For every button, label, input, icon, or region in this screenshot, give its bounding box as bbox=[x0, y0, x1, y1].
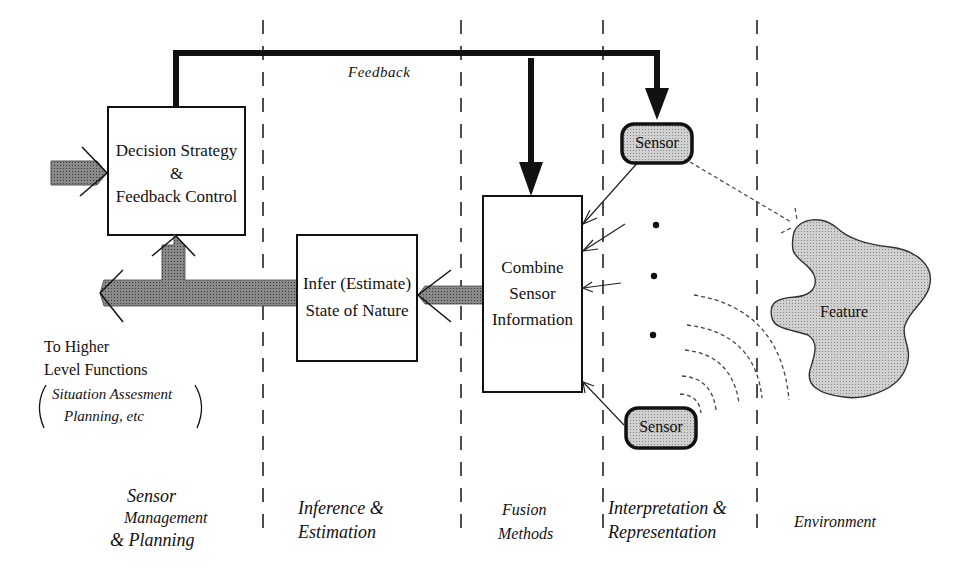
paren-right bbox=[195, 385, 202, 428]
col1-line3: & Planning bbox=[110, 528, 208, 552]
col2-line1: Inference & bbox=[298, 496, 384, 520]
feature-label: Feature bbox=[820, 303, 868, 321]
paren-left bbox=[39, 385, 46, 428]
paren-line-1: Situation Assesment bbox=[52, 383, 172, 405]
sensor-input-arrows bbox=[583, 160, 640, 425]
sensing-beam bbox=[690, 162, 797, 233]
col4-line1: Interpretation & bbox=[608, 496, 727, 520]
infer-line-1: Infer (Estimate) bbox=[297, 270, 417, 297]
higher-line-1: To Higher bbox=[44, 335, 148, 358]
feedback-label: Feedback bbox=[348, 64, 410, 81]
infer-line-2: State of Nature bbox=[297, 297, 417, 324]
combine-to-infer-arrow bbox=[418, 270, 483, 322]
feedback-bus bbox=[176, 53, 657, 165]
col5-line1: Environment bbox=[794, 510, 876, 534]
column-environment: Environment bbox=[794, 510, 876, 534]
column-interpretation: Interpretation & Representation bbox=[608, 496, 727, 544]
decision-line-2: & bbox=[108, 164, 245, 184]
combine-line-2: Sensor bbox=[483, 281, 582, 307]
combine-line-3: Information bbox=[483, 307, 582, 333]
feedback-arrowhead-combine bbox=[519, 162, 543, 196]
col4-line2: Representation bbox=[608, 520, 727, 544]
combine-line-1: Combine bbox=[483, 255, 582, 281]
decision-box-label: Decision Strategy & Feedback Control bbox=[108, 138, 245, 210]
input-arrow bbox=[51, 147, 107, 196]
decision-line-3: Feedback Control bbox=[108, 184, 245, 210]
col3-line2: Methods bbox=[498, 522, 553, 546]
col2-line2: Estimation bbox=[298, 520, 384, 544]
higher-level-examples: Situation Assesment Planning, etc bbox=[52, 383, 172, 427]
infer-box-label: Infer (Estimate) State of Nature bbox=[297, 270, 417, 324]
output-arrow bbox=[100, 234, 298, 322]
decision-line-1: Decision Strategy bbox=[108, 138, 245, 164]
col3-line1: Fusion bbox=[498, 498, 553, 522]
feedback-arrowhead-sensor bbox=[645, 88, 669, 120]
sensor-bottom: Sensor bbox=[626, 418, 696, 436]
sensor-top: Sensor bbox=[622, 134, 692, 152]
higher-line-2: Level Functions bbox=[44, 358, 148, 381]
combine-box-label: Combine Sensor Information bbox=[483, 255, 582, 333]
col1-line1: Sensor bbox=[110, 484, 208, 508]
column-inference: Inference & Estimation bbox=[298, 496, 384, 544]
column-fusion: Fusion Methods bbox=[498, 498, 553, 546]
column-sensor-management: Sensor Management & Planning bbox=[110, 484, 208, 552]
paren-line-2: Planning, etc bbox=[52, 405, 172, 427]
higher-level-label: To Higher Level Functions bbox=[44, 335, 148, 381]
col1-line2: Management bbox=[110, 508, 208, 528]
ellipsis-dots bbox=[650, 222, 659, 338]
